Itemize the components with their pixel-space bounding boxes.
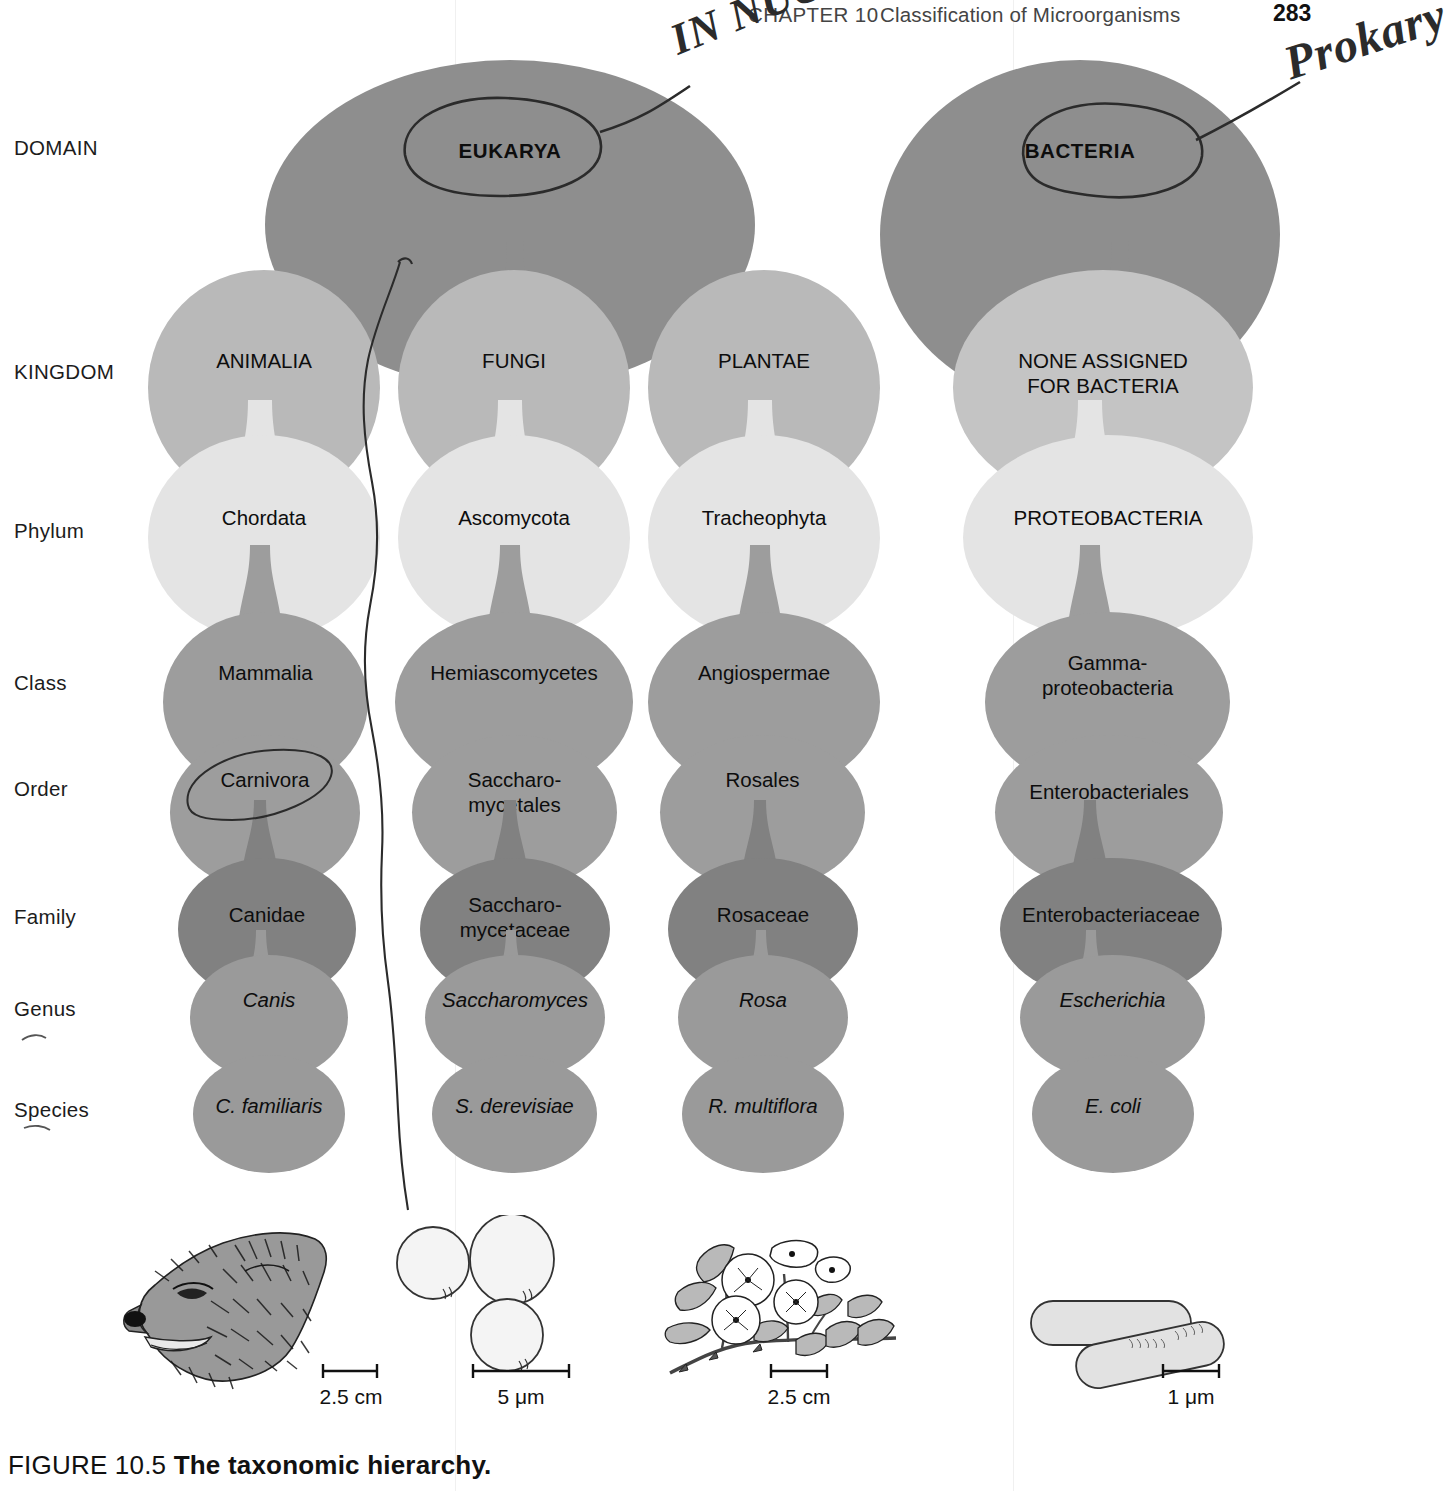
- rank-label-family: Family: [14, 905, 76, 929]
- scale-label-rose: 2.5 cm: [753, 1385, 845, 1409]
- page-number: 283: [1273, 0, 1311, 27]
- scale-label-yeast: 5 μm: [470, 1385, 572, 1409]
- scale-bar-ecoli: [1160, 1360, 1222, 1380]
- figure-caption-prefix: FIGURE 10.5: [8, 1450, 174, 1480]
- scale-bar-yeast: [470, 1360, 572, 1380]
- rank-label-kingdom: KINGDOM: [14, 360, 114, 384]
- blob-species-e-coli: E. coli: [1032, 1055, 1194, 1173]
- scale-label-dog: 2.5 cm: [305, 1385, 397, 1409]
- blob-species-c-familiaris: C. familiaris: [193, 1055, 345, 1173]
- margin-mark-2: [24, 1126, 50, 1130]
- rank-label-class: Class: [14, 671, 67, 695]
- yeast-illustration: [395, 1215, 570, 1375]
- rank-label-phylum: Phylum: [14, 519, 84, 543]
- figure-caption: FIGURE 10.5 The taxonomic hierarchy.: [8, 1450, 492, 1481]
- running-head-title: Classification of Microorganisms: [880, 3, 1180, 27]
- blob-species-s-derevisiae: S. derevisiae: [432, 1055, 597, 1173]
- scale-bar-rose: [768, 1360, 830, 1380]
- scale-label-ecoli: 1 μm: [1145, 1385, 1237, 1409]
- scale-bar-dog: [320, 1360, 380, 1380]
- dog-illustration: [115, 1215, 330, 1390]
- figure-caption-title: The taxonomic hierarchy.: [174, 1450, 492, 1480]
- rank-label-order: Order: [14, 777, 68, 801]
- blob-species-r-multiflora: R. multiflora: [682, 1055, 844, 1173]
- margin-mark-1: [22, 1035, 46, 1040]
- rank-label-genus: Genus: [14, 997, 76, 1021]
- rank-label-species: Species: [14, 1098, 89, 1122]
- rose-illustration: [660, 1218, 920, 1383]
- rank-label-domain: DOMAIN: [14, 136, 98, 160]
